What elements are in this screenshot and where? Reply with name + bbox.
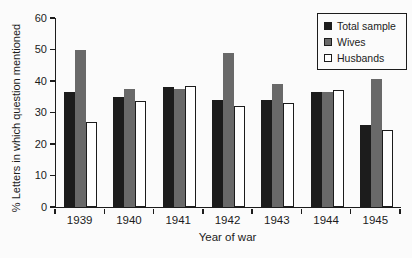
x-tick-mark <box>104 209 106 214</box>
legend-label: Total sample <box>337 20 396 32</box>
bar-wives-1945 <box>371 79 382 207</box>
bar-total-sample-1945 <box>360 125 371 207</box>
bar-husbands-1939 <box>86 122 97 207</box>
y-tick-label: 40 <box>21 75 47 88</box>
legend-swatch-icon <box>324 54 332 62</box>
x-tick-mark <box>202 209 204 214</box>
y-tick-mark <box>50 49 55 51</box>
x-tick-mark <box>251 209 253 214</box>
legend-item-husbands: Husbands <box>324 50 402 65</box>
legend-label: Wives <box>337 36 366 48</box>
bar-wives-1940 <box>124 89 135 207</box>
y-tick-mark <box>50 17 55 19</box>
bar-wives-1942 <box>223 53 234 207</box>
legend-swatch-icon <box>324 22 332 30</box>
bar-total-sample-1940 <box>113 97 124 207</box>
y-tick-label: 60 <box>21 12 47 25</box>
x-category-label: 1945 <box>350 214 400 227</box>
bar-husbands-1944 <box>333 90 344 207</box>
y-tick-mark <box>50 175 55 177</box>
x-category-label: 1941 <box>153 214 203 227</box>
x-axis-title: Year of war <box>55 231 400 243</box>
x-category-label: 1943 <box>252 214 302 227</box>
y-tick-mark <box>50 112 55 114</box>
bar-wives-1941 <box>174 89 185 207</box>
bar-wives-1943 <box>272 84 283 207</box>
x-tick-mark <box>54 209 56 214</box>
legend-items: Total sampleWivesHusbands <box>324 18 402 65</box>
y-tick-label: 30 <box>21 106 47 119</box>
x-tick-mark <box>350 209 352 214</box>
legend-item-wives: Wives <box>324 34 402 49</box>
y-tick-mark <box>50 143 55 145</box>
bar-wives-1939 <box>75 50 86 208</box>
bar-husbands-1943 <box>283 103 294 207</box>
y-tick-label: 10 <box>21 169 47 182</box>
legend-label: Husbands <box>337 52 384 64</box>
x-tick-mark <box>399 209 401 214</box>
x-tick-mark <box>301 209 303 214</box>
bar-total-sample-1942 <box>212 100 223 207</box>
bar-total-sample-1941 <box>163 87 174 207</box>
bar-husbands-1940 <box>135 101 146 207</box>
legend-item-total-sample: Total sample <box>324 18 402 33</box>
bar-total-sample-1939 <box>64 92 75 207</box>
x-category-label: 1940 <box>104 214 154 227</box>
bar-total-sample-1943 <box>261 100 272 207</box>
bar-husbands-1942 <box>234 106 245 207</box>
y-tick-label: 50 <box>21 43 47 56</box>
bar-husbands-1945 <box>382 130 393 207</box>
bar-wives-1944 <box>322 92 333 207</box>
legend-swatch-icon <box>324 38 332 46</box>
y-tick-label: 20 <box>21 138 47 151</box>
x-tick-mark <box>153 209 155 214</box>
y-tick-mark <box>50 80 55 82</box>
y-tick-label: 0 <box>21 201 47 214</box>
bar-total-sample-1944 <box>311 92 322 207</box>
legend-box: Total sampleWivesHusbands <box>317 13 407 70</box>
bar-chart-figure: % Letters in which question mentioned 01… <box>0 0 412 258</box>
x-category-label: 1942 <box>203 214 253 227</box>
bar-husbands-1941 <box>185 86 196 207</box>
x-category-label: 1944 <box>301 214 351 227</box>
x-category-label: 1939 <box>55 214 105 227</box>
